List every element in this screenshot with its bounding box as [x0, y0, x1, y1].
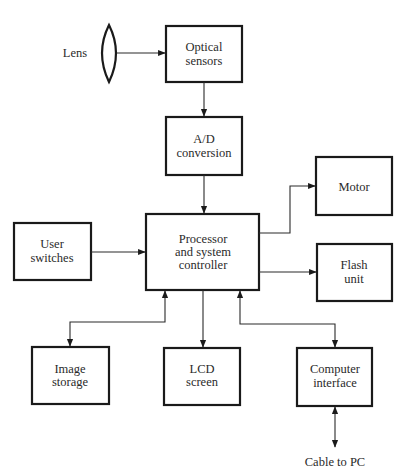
block-label: Optical: [186, 40, 223, 54]
arrow-processor-image-storage: [70, 291, 165, 346]
block-label: controller: [179, 258, 228, 272]
block-computer-interface: Computer interface: [297, 348, 372, 406]
block-label: switches: [30, 251, 73, 265]
block-motor: Motor: [316, 157, 392, 215]
camera-block-diagram: Lens Optical sensors A/D conversion Proc…: [0, 0, 416, 476]
block-label: LCD: [190, 362, 215, 376]
block-label: screen: [186, 375, 219, 389]
block-label: A/D: [193, 132, 215, 146]
block-label: Image: [54, 362, 86, 376]
block-label: Computer: [310, 362, 361, 376]
block-label: sensors: [186, 54, 223, 68]
block-label: unit: [344, 272, 364, 286]
block-label: Motor: [338, 180, 370, 194]
block-label: Flash: [340, 258, 368, 272]
block-label: conversion: [177, 146, 233, 160]
block-image-storage: Image storage: [32, 347, 109, 404]
cable-to-pc-label: Cable to PC: [305, 455, 365, 469]
block-processor: Processor and system controller: [146, 214, 259, 290]
lens-icon: [102, 25, 116, 82]
block-label: interface: [313, 376, 357, 390]
block-label: User: [40, 237, 64, 251]
lens-label: Lens: [63, 46, 87, 60]
block-label: and system: [175, 245, 231, 259]
block-flash-unit: Flash unit: [317, 244, 392, 301]
block-optical-sensors: Optical sensors: [166, 26, 242, 82]
arrow-processor-to-motor: [259, 186, 315, 233]
block-ad-conversion: A/D conversion: [166, 117, 242, 175]
block-label: storage: [52, 375, 89, 389]
block-lcd-screen: LCD screen: [164, 348, 240, 405]
block-label: Processor: [179, 232, 228, 246]
block-user-switches: User switches: [14, 223, 91, 280]
